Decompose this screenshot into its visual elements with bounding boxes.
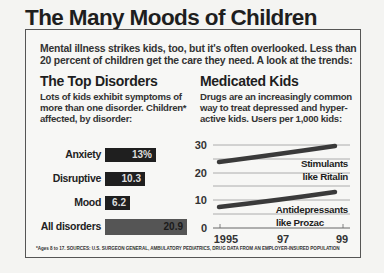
x-tick-1995: 1995	[214, 233, 238, 245]
antidepressants-label-line-2: like Prozac	[276, 217, 325, 228]
y-tick-30: 30	[195, 139, 207, 151]
y-tick-0: 0	[201, 222, 207, 234]
x-tick-99: 99	[336, 233, 348, 245]
stimulants-label-line-2: like Ritalin	[303, 171, 349, 182]
medicated-kids-line-chart: 30 20 10 0 1995 97 99 Stimulants like Ri…	[0, 0, 384, 273]
footnote-sources: *Ages 8 to 17. SOURCES: U.S. SURGEON GEN…	[36, 246, 340, 251]
stimulants-label-line-1: Stimulants	[301, 158, 349, 169]
antidepressants-label-line-1: Antidepressants	[276, 204, 349, 215]
y-tick-20: 20	[195, 167, 207, 179]
x-tick-97: 97	[277, 233, 289, 245]
y-tick-10: 10	[195, 194, 207, 206]
